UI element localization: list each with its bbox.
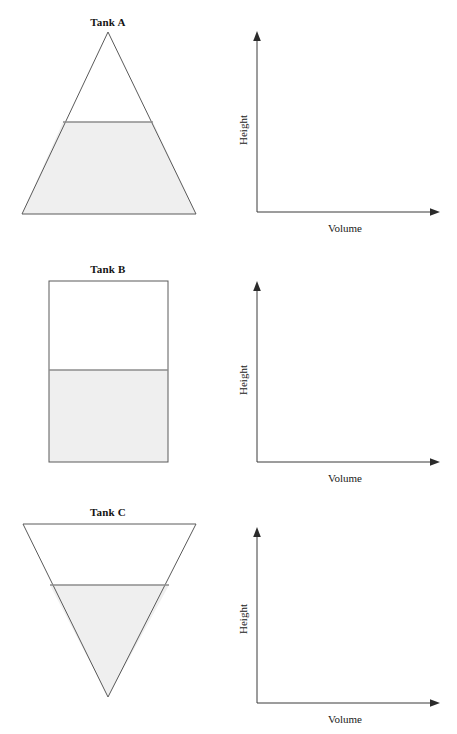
- chart-c-x-axis-label: Volume: [295, 713, 395, 725]
- chart-c-x-axis-arrow-icon: [430, 699, 440, 707]
- worksheet-page: Tank A Height Volume Tank B: [0, 0, 457, 734]
- panel-tank-c: Tank C Height Volume: [0, 0, 457, 734]
- tank-c-figure: [0, 0, 457, 734]
- chart-c-y-axis-arrow-icon: [253, 527, 261, 537]
- tank-c-water-fill: [50, 585, 169, 697]
- chart-c-y-axis-label: Height: [237, 589, 249, 649]
